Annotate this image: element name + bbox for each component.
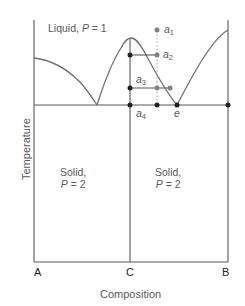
- marker-b-on-eutectic: [226, 103, 231, 108]
- point-label-e: e: [174, 107, 180, 119]
- marker-a3: [155, 86, 160, 91]
- marker-a3-tieline-right-end: [168, 86, 173, 91]
- point-label-a1: a1: [164, 23, 174, 36]
- solid-left-region-label: Solid, P = 2: [60, 166, 86, 190]
- marker-a2-tieline-left-end: [128, 53, 133, 58]
- solid-left-phase-symbol: P: [61, 178, 68, 190]
- marker-c-on-eutectic: [128, 103, 133, 108]
- marker-a4: [155, 103, 160, 108]
- y-axis-label: Temperature: [20, 118, 33, 180]
- phase-diagram-figure: Temperature Composition A C B Liquid, P …: [0, 0, 245, 306]
- solid-right-label-text: Solid,: [155, 166, 181, 178]
- point-label-a3-base: a: [136, 73, 142, 85]
- liquid-region-label: Liquid, P = 1: [48, 22, 107, 34]
- marker-a3-tieline-left-end: [128, 86, 133, 91]
- point-label-a2-base: a: [163, 48, 169, 60]
- liquid-region-phase-symbol: P: [82, 22, 89, 34]
- point-label-a4: a4: [136, 107, 146, 120]
- x-axis-label: Composition: [100, 288, 161, 301]
- point-label-a1-sub: 1: [170, 28, 174, 37]
- marker-a1: [155, 28, 160, 33]
- point-label-a3-sub: 3: [142, 78, 146, 87]
- point-label-a2: a2: [163, 48, 173, 61]
- point-label-a4-base: a: [136, 107, 142, 119]
- x-tick-a: A: [34, 266, 41, 279]
- solid-right-region-label: Solid, P = 2: [155, 166, 181, 190]
- liquidus-right-branch: [177, 30, 228, 105]
- x-tick-b: B: [222, 266, 229, 279]
- marker-a2: [155, 53, 160, 58]
- point-label-e-base: e: [174, 107, 180, 119]
- liquid-region-label-text: Liquid,: [48, 22, 79, 34]
- point-label-a4-sub: 4: [142, 112, 146, 121]
- solid-right-phase-value: = 2: [166, 178, 181, 190]
- liquidus-left-branch: [34, 58, 97, 105]
- point-label-a2-sub: 2: [169, 53, 173, 62]
- solid-left-phase-value: = 2: [71, 178, 86, 190]
- x-tick-c: C: [126, 266, 134, 279]
- phase-diagram-canvas: [0, 0, 245, 306]
- point-label-a3: a3: [136, 73, 146, 86]
- solid-left-label-text: Solid,: [60, 166, 86, 178]
- liquid-region-phase-value: = 1: [92, 22, 107, 34]
- point-label-a1-base: a: [164, 23, 170, 35]
- solid-right-phase-symbol: P: [156, 178, 163, 190]
